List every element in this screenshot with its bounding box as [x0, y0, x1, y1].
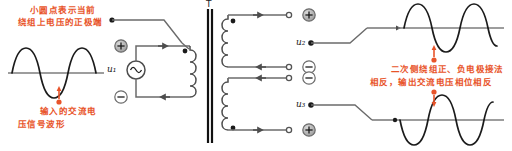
dot-note-line2: 绕组上电压的正极端: [18, 17, 103, 29]
dot-note-line1: 小圆点表示当前: [30, 5, 96, 17]
secondary-note-leader-up: [431, 45, 436, 63]
input-note-leader: [56, 86, 61, 105]
polarity-dot-secondary-top: [231, 19, 236, 24]
input-note-line2: 压信号波形: [18, 119, 65, 131]
u3-leader-endpoint: [393, 118, 397, 122]
primary-winding-coil: [190, 46, 196, 97]
secondary-note-line1: 二次侧绕组正、负电极接法: [391, 64, 504, 76]
polarity-dot-primary-winding: [183, 49, 188, 54]
secondary-top-waveform-chart: [398, 4, 504, 52]
voltage-label-u2: u₂: [296, 37, 305, 47]
transformer-label-T: T: [206, 0, 212, 9]
u2-leader: [308, 26, 401, 46]
secondary-winding-bottom: [222, 75, 292, 132]
terminal-post-sec-bot-plus: [286, 127, 291, 132]
voltage-label-u3: u₃: [296, 99, 305, 109]
voltage-label-u1: u₁: [107, 64, 116, 74]
secondary-note-line2: 相反，输出交流电压相位相反: [370, 77, 492, 89]
secondary-bottom-waveform-chart: [398, 95, 504, 145]
transformer-phase-diagram: 小圆点表示当前 绕组上电压的正极端 输入的交流电 压信号波形 二次侧绕组正、负电…: [0, 0, 512, 151]
terminal-post-sec-bot-minus: [286, 75, 291, 80]
u3-leader: [308, 102, 398, 122]
input-note-line1: 输入的交流电: [40, 106, 96, 118]
transformer-core: [208, 9, 212, 143]
terminal-post-sec-top-plus: [286, 12, 291, 17]
input-waveform-chart: [8, 48, 104, 98]
secondary-winding-top: [222, 12, 292, 69]
terminal-post-sec-top-minus: [286, 64, 291, 69]
primary-circuit: [127, 46, 196, 97]
